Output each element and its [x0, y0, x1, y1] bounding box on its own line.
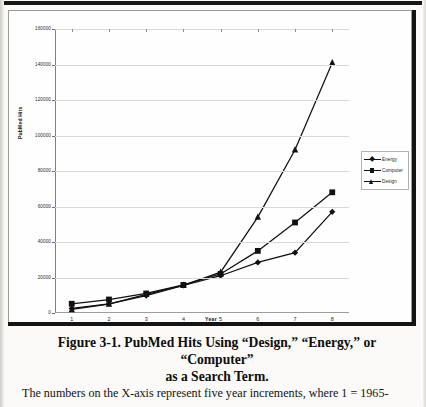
plot-area-container: 0200004000060000800001000001200001400001…	[55, 29, 349, 313]
x-tick-mark	[109, 29, 110, 32]
square-marker	[370, 168, 374, 172]
legend-line-sample	[364, 166, 381, 175]
plot-area: 0200004000060000800001000001200001400001…	[55, 29, 349, 313]
y-tick-mark	[52, 171, 55, 172]
square-marker	[255, 248, 261, 254]
x-tick-mark	[183, 29, 184, 32]
y-tick-mark	[52, 65, 55, 66]
x-tick-mark	[221, 29, 222, 32]
x-tick-mark	[258, 29, 259, 32]
gridline-120000	[55, 100, 349, 101]
series-line-energy	[72, 212, 333, 309]
scanned-page: PubMed Hits 0200004000060000800001000001…	[0, 0, 426, 407]
legend-label: Energy	[381, 157, 397, 162]
legend-item-computer: Computer	[364, 165, 407, 176]
y-tick-label-120000: 120000	[11, 97, 51, 102]
figure-top-rule	[4, 1, 422, 5]
gridline-140000	[55, 65, 349, 66]
y-tick-label-160000: 160000	[11, 26, 51, 31]
x-tick-mark	[72, 29, 73, 32]
chart-legend: EnergyComputerDesign	[361, 151, 409, 190]
y-tick-mark	[52, 100, 55, 101]
y-tick-mark	[52, 207, 55, 208]
gridline-80000	[55, 171, 349, 172]
caption-line-2: as a Search Term.	[165, 369, 268, 384]
legend-line-sample	[364, 177, 381, 186]
y-tick-mark	[52, 29, 55, 30]
diamond-marker	[369, 156, 375, 162]
y-tick-label-140000: 140000	[11, 62, 51, 67]
caption-line-1: Figure 3-1. PubMed Hits Using “Design,” …	[58, 335, 376, 367]
triangle-marker	[292, 146, 298, 152]
legend-line-sample	[364, 155, 381, 164]
triangle-marker	[369, 179, 373, 184]
page-left-edge-shadow	[0, 0, 4, 407]
figure-frame: PubMed Hits 0200004000060000800001000001…	[8, 10, 412, 324]
x-tick-mark	[295, 29, 296, 32]
y-tick-label-60000: 60000	[11, 204, 51, 209]
gridline-20000	[55, 278, 349, 279]
legend-item-design: Design	[364, 176, 407, 187]
figure-right-dark-edge	[412, 10, 416, 324]
y-tick-mark	[52, 242, 55, 243]
legend-label: Design	[381, 179, 397, 184]
figure-bottom-rule	[8, 322, 416, 326]
legend-label: Computer	[381, 168, 403, 173]
gridline-160000	[55, 29, 349, 30]
chart-plot-wrapper: PubMed Hits 0200004000060000800001000001…	[9, 11, 413, 325]
y-tick-mark	[52, 313, 55, 314]
x-tick-mark	[146, 29, 147, 32]
legend-item-energy: Energy	[364, 154, 407, 165]
y-tick-label-20000: 20000	[11, 275, 51, 280]
y-tick-label-40000: 40000	[11, 239, 51, 244]
triangle-marker	[255, 213, 261, 219]
square-marker	[329, 189, 335, 195]
gridline-100000	[55, 136, 349, 137]
y-tick-mark	[52, 278, 55, 279]
y-tick-mark	[52, 136, 55, 137]
y-tick-label-80000: 80000	[11, 168, 51, 173]
y-tick-label-100000: 100000	[11, 133, 51, 138]
figure-caption: Figure 3-1. PubMed Hits Using “Design,” …	[22, 334, 412, 385]
diamond-marker	[255, 259, 261, 265]
series-line-computer	[72, 192, 333, 303]
gridline-40000	[55, 242, 349, 243]
x-tick-mark	[332, 29, 333, 32]
body-paragraph: The numbers on the X-axis represent five…	[22, 386, 420, 401]
y-tick-label-0: 0	[11, 310, 51, 315]
square-marker	[292, 220, 298, 226]
gridline-60000	[55, 207, 349, 208]
